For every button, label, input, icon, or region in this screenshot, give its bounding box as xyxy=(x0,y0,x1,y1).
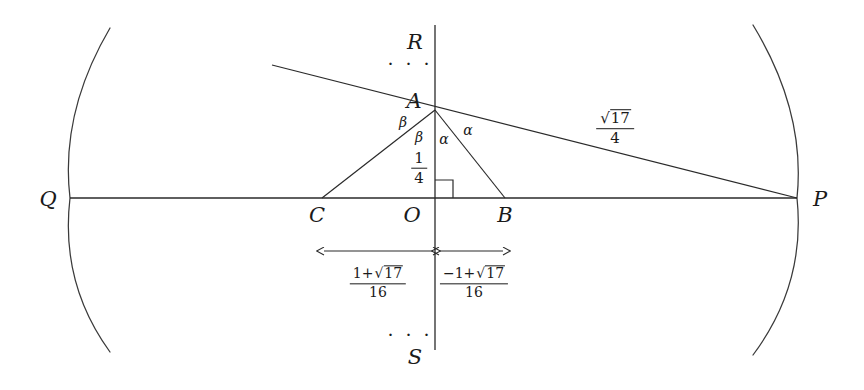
geometry-figure: Q P R S A O B C β β α α · · · · · · 1 4 … xyxy=(0,0,864,390)
segment-ob-denominator: 16 xyxy=(440,284,508,301)
segment-co-radicand: 17 xyxy=(383,265,403,282)
altitude-numerator: 1 xyxy=(411,150,427,169)
measure-segment-OB: −1+√17 16 xyxy=(440,265,508,300)
angle-label-alpha-inner: α xyxy=(439,132,448,146)
sqrt-icon: √17 xyxy=(599,109,631,127)
segment-ob-numerator: −1+√17 xyxy=(440,265,508,284)
measure-altitude-one-quarter: 1 4 xyxy=(411,150,427,187)
measure-segment-CO: 1+√17 16 xyxy=(350,265,406,300)
point-label-Q: Q xyxy=(39,189,56,210)
right-angle-marker xyxy=(435,180,453,198)
top-ellipsis: · · · xyxy=(387,52,432,74)
altitude-denominator: 4 xyxy=(411,169,427,187)
point-label-A: A xyxy=(406,91,421,112)
left-arc xyxy=(68,28,110,352)
hypotenuse-denominator: 4 xyxy=(596,129,634,147)
right-arc xyxy=(753,25,798,355)
sqrt-icon: √17 xyxy=(373,265,403,282)
segment-ob-radicand: 17 xyxy=(485,265,505,282)
segment-co-denominator: 16 xyxy=(350,284,406,301)
hypotenuse-radicand: 17 xyxy=(610,109,631,127)
point-label-C: C xyxy=(309,205,325,226)
point-label-S: S xyxy=(408,347,422,368)
point-label-P: P xyxy=(813,189,827,210)
angle-label-alpha-outer: α xyxy=(463,123,472,137)
segment-ob-prefix: −1+ xyxy=(443,265,475,281)
sqrt-icon: √17 xyxy=(475,265,505,282)
point-label-R: R xyxy=(407,32,423,53)
hypotenuse-numerator: √17 xyxy=(596,109,634,129)
point-label-O: O xyxy=(403,205,420,226)
angle-label-beta-outer: β xyxy=(399,115,407,129)
measure-hypotenuse-sqrt17-over-4: √17 4 xyxy=(596,109,634,147)
secant-line-AP xyxy=(272,65,797,198)
point-label-B: B xyxy=(497,205,512,226)
bottom-ellipsis: · · · xyxy=(387,323,432,345)
segment-co-prefix: 1+ xyxy=(353,265,374,281)
angle-label-beta-inner: β xyxy=(415,130,423,144)
segment-co-numerator: 1+√17 xyxy=(350,265,406,284)
